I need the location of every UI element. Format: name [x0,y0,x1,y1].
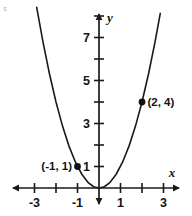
point-marker-dot [74,163,81,170]
parabola-graph-figure: s -3 -1 1 3 x [0,0,192,216]
annotation-point-2-4: (2, 4) [139,96,175,108]
y-axis-bottom-arrow-icon [96,198,103,205]
x-tick-label-neg3: -3 [29,196,40,210]
y-tick-label-1: 1 [83,160,90,174]
y-axis-title: y [105,10,113,25]
y-axis: 1 3 5 7 y [83,10,113,205]
point-label-neg1-1: (-1, 1) [41,160,72,172]
coordinate-plane: -3 -1 1 3 x 1 3 5 7 y [0,0,192,216]
x-axis-title: x [168,165,176,180]
y-tick-label-5: 5 [83,74,90,88]
point-label-2-4: (2, 4) [148,96,175,108]
x-axis-right-arrow-icon [173,185,180,192]
point-marker-dot [139,99,146,106]
x-tick-label-pos3: 3 [160,196,167,210]
x-tick-label-neg1: -1 [72,196,83,210]
y-tick-label-3: 3 [83,117,90,131]
y-tick-label-7: 7 [83,31,90,45]
x-tick-label-pos1: 1 [117,196,124,210]
x-axis-left-arrow-icon [12,185,19,192]
